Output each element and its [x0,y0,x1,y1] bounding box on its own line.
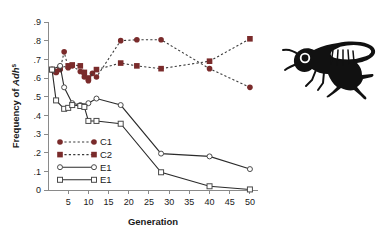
legend-marker [92,165,97,170]
legend-marker [57,139,63,145]
legend-marker [91,152,97,158]
data-point-C2 [158,66,164,72]
data-point-C2 [86,75,92,81]
x-tick-label: 40 [205,197,215,207]
x-tick-label: 30 [164,197,174,207]
series-E1 [50,63,253,171]
y-axis-title-italic: Adh [10,67,21,87]
data-point-E1 [159,151,164,156]
legend-label: E1 [100,174,112,185]
legend-label: C2 [100,149,112,160]
svg-text:Frequency of Adhs: Frequency of Adhs [10,63,21,148]
legend-marker [92,177,97,182]
data-point-C2 [94,67,100,73]
chart-series-group [49,36,252,192]
data-point-C2 [247,36,253,42]
y-tick-label: .5 [33,92,41,102]
y-tick-label: .6 [33,73,41,83]
data-point-C2 [82,70,88,76]
x-tick-label: 5 [66,197,71,207]
data-point-E1 [247,167,252,172]
data-point-C2 [207,58,213,64]
legend-marker [57,152,63,158]
data-point-C1 [134,37,140,43]
y-tick-label: .9 [33,17,41,27]
legend-label: E1 [100,162,112,173]
y-axis-ticks: 0.1.2.3.4.5.6.7.8.9 [33,17,48,195]
x-tick-label: 50 [245,197,255,207]
y-tick-label: .3 [33,129,41,139]
data-point-E1 [58,63,63,68]
data-point-C1 [158,37,164,43]
data-point-E1b [118,121,123,126]
y-tick-label: .8 [33,36,41,46]
data-point-E1b [86,118,91,123]
legend-item-1: C2 [57,149,112,160]
data-point-C2 [69,62,75,68]
x-tick-label: 35 [184,197,194,207]
data-point-C1 [207,66,213,72]
data-point-E1b [247,187,252,192]
figure-container: 0.1.2.3.4.5.6.7.8.9 5101520253035404550 … [0,0,382,238]
data-point-E1b [94,118,99,123]
x-tick-label: 15 [104,197,114,207]
adh-frequency-chart: 0.1.2.3.4.5.6.7.8.9 5101520253035404550 … [0,0,382,238]
y-tick-label: .2 [33,148,41,158]
data-point-E1b [54,98,59,103]
legend-label: C1 [100,136,112,147]
data-point-E1 [94,96,99,101]
y-axis-title-superscript: s [10,63,17,67]
y-tick-label: .1 [33,167,41,177]
data-point-E1 [62,85,67,90]
data-point-C1 [94,74,100,80]
x-tick-label: 20 [124,197,134,207]
data-point-E1 [118,103,123,108]
data-point-E1 [207,154,212,159]
data-point-E1b [70,103,75,108]
series-line-E1 [52,66,250,169]
data-point-C2 [134,63,140,69]
x-tick-label: 10 [83,197,93,207]
series-E1b [50,67,253,192]
data-point-E1b [50,67,55,72]
data-point-E1b [207,184,212,189]
legend-marker [58,177,63,182]
legend-item-3: E1 [58,174,112,185]
y-axis-title: Frequency of Adhs [10,63,21,148]
data-point-E1b [159,170,164,175]
x-axis-ticks: 5101520253035404550 [66,190,255,207]
x-axis-title: Generation [128,216,178,227]
data-point-C1 [118,38,124,44]
legend-item-2: E1 [58,162,112,173]
data-point-E1b [82,104,87,109]
legend-marker [58,165,63,170]
data-point-C2 [118,60,124,66]
legend-item-0: C1 [57,136,112,147]
series-line-E1b [52,70,250,190]
x-tick-label: 45 [225,197,235,207]
y-tick-label: .4 [33,111,41,121]
legend-marker [91,139,97,145]
y-tick-label: 0 [36,185,41,195]
y-tick-label: .7 [33,55,41,65]
data-point-C2 [78,63,84,69]
x-tick-label: 25 [144,197,154,207]
y-axis-title-prefix: Frequency of [10,86,21,148]
drosophila-fly-illustration [283,42,375,100]
data-point-C1 [61,49,67,55]
data-point-C1 [247,85,253,91]
chart-legend: C1C2E1E1 [57,136,112,185]
